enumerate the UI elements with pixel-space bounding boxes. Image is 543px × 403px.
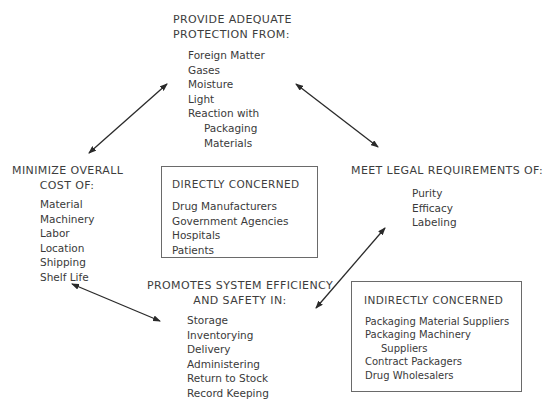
top-node-heading: PROVIDE ADEQUATE PROTECTION FROM: — [173, 12, 292, 42]
double-arrow-top-left — [89, 84, 167, 153]
right-node-list: Purity Efficacy Labeling — [412, 186, 457, 230]
list-sub-item: Packaging — [188, 121, 265, 136]
list-item: Material — [40, 197, 94, 212]
list-item: Gases — [188, 63, 265, 78]
list-item: Labor — [40, 226, 94, 241]
top-node-list: Foreign Matter Gases Moisture Light Reac… — [188, 48, 265, 150]
list-item: Record Keeping — [187, 386, 269, 401]
heading-line: COST OF: — [12, 178, 122, 193]
list-item: Delivery — [187, 342, 269, 357]
heading-line: PROVIDE ADEQUATE — [173, 12, 292, 27]
directly-concerned-box: DIRECTLY CONCERNED Drug Manufacturers Go… — [161, 166, 318, 258]
list-item: Labeling — [412, 215, 457, 230]
box-list: Packaging Material Suppliers Packaging M… — [365, 315, 509, 382]
list-item: Packaging Machinery — [365, 328, 509, 341]
heading-line: PROMOTES SYSTEM EFFICIENCY — [140, 278, 340, 293]
box-list: Drug Manufacturers Government Agencies H… — [172, 199, 288, 257]
list-item: Patients — [172, 243, 288, 258]
list-item: Moisture — [188, 77, 265, 92]
double-arrow-top-right — [296, 84, 378, 147]
list-sub-item: Materials — [188, 136, 265, 151]
heading-line: MINIMIZE OVERALL — [12, 163, 122, 178]
list-item: Hospitals — [172, 228, 288, 243]
right-node-heading: MEET LEGAL REQUIREMENTS OF: — [351, 163, 543, 178]
left-node-list: Material Machinery Labor Location Shippi… — [40, 197, 94, 285]
heading-line: PROTECTION FROM: — [173, 27, 292, 42]
list-item: Drug Wholesalers — [365, 369, 509, 382]
list-item: Reaction with — [188, 106, 265, 121]
list-item: Foreign Matter — [188, 48, 265, 63]
box-title: INDIRECTLY CONCERNED — [364, 293, 503, 308]
list-item: Light — [188, 92, 265, 107]
list-item: Contract Packagers — [365, 355, 509, 368]
bottom-node-heading: PROMOTES SYSTEM EFFICIENCY AND SAFETY IN… — [140, 278, 340, 308]
list-item: Shipping — [40, 255, 94, 270]
list-item: Administering — [187, 357, 269, 372]
list-item: Government Agencies — [172, 214, 288, 229]
indirectly-concerned-box: INDIRECTLY CONCERNED Packaging Material … — [351, 281, 522, 392]
list-item: Packaging Material Suppliers — [365, 315, 509, 328]
list-item: Purity — [412, 186, 457, 201]
box-title: DIRECTLY CONCERNED — [172, 177, 300, 192]
list-item: Efficacy — [412, 201, 457, 216]
list-item: Storage — [187, 313, 269, 328]
list-item: Return to Stock — [187, 371, 269, 386]
list-item: Machinery — [40, 212, 94, 227]
list-item: Location — [40, 241, 94, 256]
list-item: Inventorying — [187, 328, 269, 343]
heading-line: AND SAFETY IN: — [140, 293, 340, 308]
list-item: Drug Manufacturers — [172, 199, 288, 214]
bottom-node-list: Storage Inventorying Delivery Administer… — [187, 313, 269, 401]
left-node-heading: MINIMIZE OVERALL COST OF: — [12, 163, 122, 193]
list-item-continued: Suppliers — [365, 342, 509, 355]
list-item: Shelf Life — [40, 270, 94, 285]
